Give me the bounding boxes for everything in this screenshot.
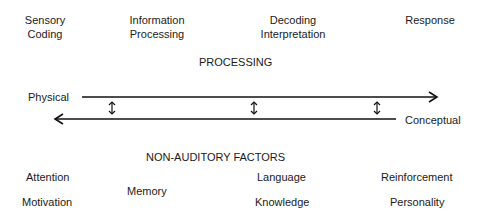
double-arrow-icon	[109, 102, 380, 114]
backward-arrow	[55, 114, 396, 124]
processing-arrows	[0, 0, 486, 220]
non-auditory-factors-label: NON-AUDITORY FACTORS	[146, 150, 285, 164]
factor-memory: Memory	[127, 184, 167, 198]
forward-arrow	[82, 92, 437, 102]
factor-personality: Personality	[390, 195, 444, 209]
factor-reinforcement: Reinforcement	[381, 170, 453, 184]
factor-attention: Attention	[26, 170, 69, 184]
factor-motivation: Motivation	[22, 195, 72, 209]
factor-language: Language	[257, 170, 306, 184]
factor-knowledge: Knowledge	[255, 195, 309, 209]
